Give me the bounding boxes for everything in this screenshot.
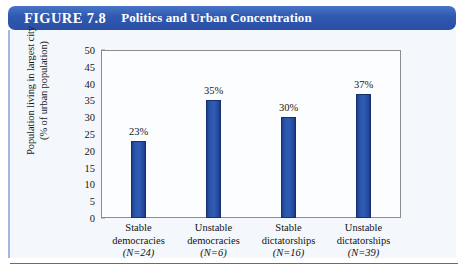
bar-value-label: 37% xyxy=(354,79,373,90)
x-category-label: Stabledemocracies(N=24) xyxy=(112,222,164,260)
x-category-line1: Unstable xyxy=(337,222,391,235)
y-tick-label: 0 xyxy=(90,213,95,224)
y-tick-label: 25 xyxy=(85,129,96,140)
x-category-sample-size: (N=39) xyxy=(337,247,391,260)
y-tick-label: 50 xyxy=(85,45,96,56)
bar-value-label: 30% xyxy=(279,102,298,113)
x-category-sample-size: (N=24) xyxy=(112,247,164,260)
y-axis-label: Population living in largest city (% of … xyxy=(25,0,50,186)
x-category-label: Unstabledictatorships(N=39) xyxy=(337,222,391,260)
y-tick-label: 45 xyxy=(85,61,96,72)
y-tick-label: 30 xyxy=(85,112,96,123)
y-axis-label-line2: (% of urban population) xyxy=(37,0,50,186)
y-tick-label: 10 xyxy=(85,179,96,190)
x-category-line2: dictatorships xyxy=(337,235,391,248)
bar-chart: Population living in largest city (% of … xyxy=(0,0,468,274)
figure-bottom-rule xyxy=(10,263,458,264)
bar xyxy=(131,141,146,218)
bar xyxy=(356,94,371,218)
x-category-line1: Unstable xyxy=(187,222,239,235)
x-category-sample-size: (N=16) xyxy=(262,247,316,260)
x-category-line1: Stable xyxy=(262,222,316,235)
x-category-label: Unstabledemocracies(N=6) xyxy=(187,222,239,260)
y-tick-label: 40 xyxy=(85,78,96,89)
x-category-line2: democracies xyxy=(112,235,164,248)
x-category-line1: Stable xyxy=(112,222,164,235)
x-category-line2: dictatorships xyxy=(262,235,316,248)
y-axis-label-line1: Population living in largest city xyxy=(25,0,38,186)
bar-value-label: 35% xyxy=(204,85,223,96)
figure-container: FIGURE 7.8 Politics and Urban Concentrat… xyxy=(0,0,468,274)
y-tick-label: 20 xyxy=(85,145,96,156)
x-category-sample-size: (N=6) xyxy=(187,247,239,260)
bar xyxy=(281,117,296,218)
y-tick-label: 5 xyxy=(90,196,95,207)
x-category-line2: democracies xyxy=(187,235,239,248)
x-category-label: Stabledictatorships(N=16) xyxy=(262,222,316,260)
y-tick-label: 35 xyxy=(85,95,96,106)
y-tick-label: 15 xyxy=(85,162,96,173)
bar-value-label: 23% xyxy=(129,126,148,137)
bar xyxy=(206,100,221,218)
